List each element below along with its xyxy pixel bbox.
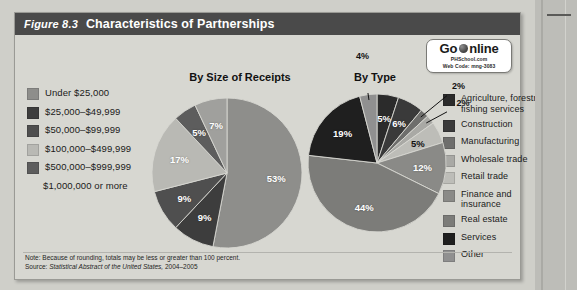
legend-type-item-label: Other	[461, 249, 484, 260]
legend-size-item-label: $50,000–$99,999	[45, 124, 120, 135]
go-online-web-code: Web Code: mng-3083	[427, 63, 511, 69]
pie-slice-label: 4%	[356, 51, 369, 61]
pie-slice-label: 2%	[457, 98, 470, 108]
pie-slice-label: 5%	[377, 113, 391, 124]
pie-slice-label: 7%	[209, 119, 223, 130]
chart-2-subtitle: By Type	[315, 71, 435, 83]
legend-size-item-label: $100,000–$499,999	[45, 143, 131, 154]
legend-size-item-label: $1,000,000 or more	[43, 180, 128, 191]
legend-type-item-label: Construction	[461, 119, 513, 130]
textbook-page: Figure 8.3 Characteristics of Partnershi…	[0, 0, 535, 290]
pie-slice-label: 5%	[192, 127, 206, 138]
figure-title-bar: Figure 8.3 Characteristics of Partnershi…	[15, 13, 520, 35]
legend-type-item-label: Wholesale trade	[461, 154, 528, 165]
figure-number: Figure 8.3	[24, 18, 78, 30]
chart-1-subtitle: By Size of Receipts	[165, 71, 315, 83]
footnote-source-prefix: Source:	[25, 263, 49, 270]
footnote-source-suffix: 2004–2005	[163, 263, 197, 270]
legend-type-item-label: Real estate	[461, 214, 508, 225]
go-online-online-text: nline	[469, 41, 498, 56]
pie-chart-by-size-of-receipts: 53%9%9%17%5%7%	[151, 97, 303, 249]
legend-swatch-icon	[27, 144, 39, 156]
legend-size-item-label: $25,000–$49,999	[45, 106, 120, 117]
legend-size-item-label: Under $25,000	[45, 87, 109, 98]
page-gutter	[535, 0, 577, 290]
figure-title: Characteristics of Partnerships	[86, 17, 275, 31]
legend-size-item-item: $25,000–$49,999	[27, 106, 149, 119]
footnote-source-title: Statistical Abstract of the United State…	[49, 263, 163, 270]
pie-slice-label: 53%	[267, 172, 286, 183]
pie-slice-label: 2%	[452, 81, 465, 91]
figure-box: Figure 8.3 Characteristics of Partnershi…	[14, 12, 521, 280]
footnote-source: Source: Statistical Abstract of the Unit…	[25, 262, 445, 271]
legend-size-item-label: $500,000–$999,999	[45, 161, 131, 172]
gutter-rule	[547, 14, 571, 16]
legend-swatch-icon	[27, 107, 39, 119]
figure-footnote: Note: Because of rounding, totals may be…	[25, 253, 445, 271]
go-online-site[interactable]: PHSchool.com	[427, 56, 511, 62]
legend-by-size-of-receipts: Under $25,000$25,000–$49,999$50,000–$99,…	[27, 87, 149, 196]
pie-chart-by-type: 5%6%2%2%5%12%44%19%4%	[307, 93, 447, 233]
legend-size-item-item: $1,000,000 or more	[27, 180, 149, 191]
legend-swatch-icon	[27, 88, 39, 100]
legend-swatch-icon	[27, 162, 39, 174]
legend-type-item-label: Manufacturing	[461, 136, 519, 147]
go-online-go-text: Go	[440, 41, 458, 56]
go-online-badge[interactable]: Go nline PHSchool.com Web Code: mng-3083	[426, 39, 512, 73]
pie-slice-label: 5%	[411, 137, 425, 148]
legend-type-item-label: Services	[461, 232, 496, 243]
legend-swatch-icon	[27, 125, 39, 137]
gutter-edge-right	[565, 0, 566, 290]
legend-size-item-item: $50,000–$99,999	[27, 124, 149, 137]
pie-slice-label: 9%	[198, 212, 212, 223]
globe-icon	[459, 44, 468, 53]
legend-swatch-icon	[443, 233, 455, 245]
legend-size-item-item: $500,000–$999,999	[27, 161, 149, 174]
footnote-note: Note: Because of rounding, totals may be…	[25, 253, 445, 262]
pie-slice-label: 17%	[170, 154, 189, 165]
legend-size-item-item: Under $25,000	[27, 87, 149, 100]
pie-slice-label: 44%	[355, 201, 374, 212]
go-online-wordmark: Go nline	[427, 41, 511, 56]
legend-type-item-label: Retail trade	[461, 171, 508, 182]
gutter-edge-left	[541, 0, 543, 290]
pie-slice-label: 12%	[413, 161, 432, 172]
pie-slice-label: 19%	[333, 128, 352, 139]
legend-swatch-icon	[27, 181, 37, 191]
pie-slice-label: 6%	[392, 118, 406, 129]
legend-size-item-item: $100,000–$499,999	[27, 143, 149, 156]
pie-slice-label: 9%	[178, 193, 192, 204]
